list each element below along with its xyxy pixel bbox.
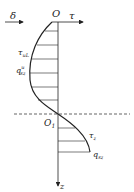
tau-uL-label: τuL	[18, 48, 30, 58]
q-sz-u-label: qusz	[16, 64, 26, 76]
stress-distribution-diagram: δ O τ z τuL qusz O1 τz qsz	[0, 0, 134, 192]
q-sz-label: qsz	[93, 150, 104, 160]
delta-label: δ	[10, 10, 16, 21]
tau-z-label: τz	[89, 131, 96, 141]
tau-axis-label: τ	[69, 10, 75, 21]
origin1-label: O1	[44, 118, 55, 129]
origin-label: O	[52, 8, 60, 19]
z-axis-label: z	[59, 182, 65, 191]
upper-hatch	[30, 31, 58, 100]
